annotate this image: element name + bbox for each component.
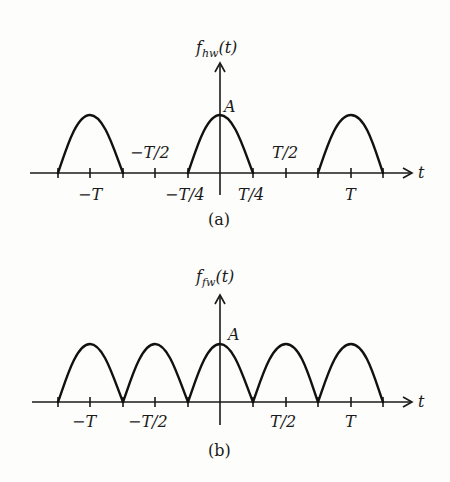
- x-axis-label: t: [418, 392, 425, 411]
- tick-label-neg-T2: −T/2: [130, 143, 170, 162]
- y-axis-label: ffw(t): [195, 267, 234, 289]
- y-axis-label: fhw(t): [195, 38, 237, 60]
- tick-label-pos-T: T: [345, 185, 357, 204]
- panel-a-caption: (a): [208, 210, 230, 229]
- tick-label-pos-T: T: [345, 412, 357, 431]
- panel-b-caption: (b): [208, 441, 231, 460]
- panel-b: ffw(t) A t −T −T/2 T/2 T (b): [32, 267, 425, 460]
- tick-label-neg-T2: −T/2: [128, 412, 168, 431]
- tick-label-pos-T2: T/2: [272, 143, 298, 162]
- tick-label-pos-T4: T/4: [238, 185, 264, 204]
- tick-label-pos-T2: T/2: [270, 412, 296, 431]
- amplitude-label: A: [222, 97, 236, 116]
- tick-label-neg-T: −T: [78, 185, 103, 204]
- x-axis-label: t: [418, 163, 425, 182]
- tick-label-neg-T: −T: [72, 412, 97, 431]
- tick-label-neg-T4: −T/4: [165, 185, 205, 204]
- panel-a: fhw(t) A t −T −T/2 −T/4 T/4 T/2 T (a): [30, 38, 425, 229]
- amplitude-label: A: [226, 325, 240, 344]
- rectified-waveforms-figure: fhw(t) A t −T −T/2 −T/4 T/4 T/2 T (a): [0, 0, 450, 482]
